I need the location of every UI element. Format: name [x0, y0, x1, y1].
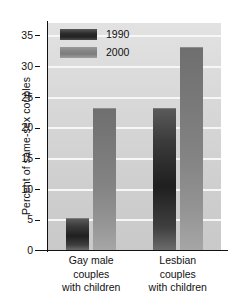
y-axis-tick-value: 20 — [21, 121, 33, 133]
legend-swatch-2000 — [60, 47, 97, 58]
bar-2000-group-1 — [93, 108, 116, 250]
y-axis-tick-labels: 05101520253035 — [18, 23, 40, 250]
category-label-line: couples — [135, 268, 222, 282]
y-axis-tick: 30 — [21, 60, 40, 72]
y-axis-tick-value: 35 — [21, 29, 33, 41]
y-axis-tick-mark — [35, 35, 40, 36]
category-label-line: Gay male — [48, 254, 135, 268]
legend-item-1990: 1990 — [60, 27, 129, 42]
y-axis-tick: 35 — [21, 29, 40, 41]
x-axis-category-label: Gay malecoupleswith children — [48, 254, 135, 295]
y-axis-tick-value: 30 — [21, 60, 33, 72]
category-label-line: couples — [48, 268, 135, 282]
category-label-line: with children — [48, 281, 135, 295]
y-axis-tick-value: 15 — [21, 152, 33, 164]
category-label-line: Lesbian — [135, 254, 222, 268]
legend-label-1990: 1990 — [106, 29, 129, 40]
legend-item-2000: 2000 — [60, 45, 129, 60]
y-axis-tick-value: 25 — [21, 91, 33, 103]
y-axis-tick: 10 — [21, 183, 40, 195]
y-axis-tick-value: 0 — [27, 244, 33, 256]
legend-swatch-1990 — [60, 29, 97, 40]
y-axis-tick-mark — [35, 189, 40, 190]
bar-chart-figure: Percent of same-sex couples 051015202530… — [0, 0, 228, 303]
y-axis-tick-value: 10 — [21, 183, 33, 195]
y-axis-tick: 5 — [27, 213, 40, 225]
y-axis-tick-mark — [35, 220, 40, 221]
y-axis-tick: 15 — [21, 152, 40, 164]
y-axis-tick-mark — [35, 66, 40, 67]
x-axis-line — [40, 250, 228, 251]
y-axis-tick: 20 — [21, 121, 40, 133]
y-axis-tick-mark — [35, 97, 40, 98]
x-axis-category-label: Lesbiancoupleswith children — [135, 254, 222, 295]
y-axis-tick: 25 — [21, 91, 40, 103]
plot-area: 1990 2000 — [48, 23, 221, 250]
legend-label-2000: 2000 — [106, 47, 129, 58]
bar-1990-group-1 — [66, 218, 89, 250]
y-axis-tick-value: 5 — [27, 213, 33, 225]
chart-legend: 1990 2000 — [60, 27, 129, 63]
x-axis-category-labels: Gay malecoupleswith childrenLesbiancoupl… — [48, 254, 221, 295]
y-axis-tick: 0 — [27, 244, 40, 256]
category-label-line: with children — [135, 281, 222, 295]
y-axis-tick-mark — [35, 128, 40, 129]
bar-2000-group-2 — [180, 47, 203, 250]
bar-1990-group-2 — [153, 108, 176, 250]
y-axis-tick-mark — [35, 158, 40, 159]
